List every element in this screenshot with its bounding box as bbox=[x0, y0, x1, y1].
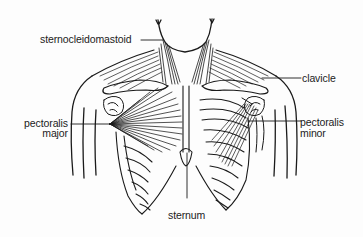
label-pectoralis-major-line2: major bbox=[18, 128, 68, 138]
anatomy-diagram: sternocleidomastoid clavicle pectoralis … bbox=[0, 0, 363, 237]
sternum-bone bbox=[180, 86, 192, 166]
trapezius-fibres bbox=[92, 50, 276, 90]
label-pectoralis-minor-line1: pectoralis bbox=[300, 117, 344, 127]
label-clavicle: clavicle bbox=[302, 73, 336, 83]
label-sternum: sternum bbox=[168, 210, 205, 220]
pectoralis-minor-muscle bbox=[212, 98, 258, 166]
sternocleidomastoid-muscle bbox=[159, 40, 213, 84]
right-rib-cage bbox=[196, 99, 250, 210]
clavicle-bones bbox=[103, 80, 268, 94]
shoulder-arm-outline bbox=[71, 76, 297, 178]
leader-lines bbox=[71, 40, 301, 198]
label-pectoralis-minor-line2: minor bbox=[300, 128, 326, 138]
label-sternocleidomastoid: sternocleidomastoid bbox=[40, 34, 131, 44]
pectoralis-major-muscle bbox=[110, 86, 182, 152]
left-rib-cage bbox=[116, 132, 176, 214]
